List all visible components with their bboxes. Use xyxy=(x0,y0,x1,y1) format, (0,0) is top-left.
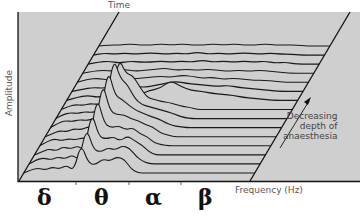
annotation-line-2: depth of xyxy=(283,121,337,131)
time-axis-label: Time xyxy=(108,0,130,10)
band-label-beta: β xyxy=(198,184,213,210)
band-label-theta: θ xyxy=(94,184,109,210)
band-label-delta: δ xyxy=(37,184,52,210)
spectral-array-figure xyxy=(0,0,360,216)
anaesthesia-annotation: Decreasing depth of anaesthesia xyxy=(283,111,337,141)
band-label-alpha: α xyxy=(145,184,162,210)
annotation-line-1: Decreasing xyxy=(283,111,337,121)
annotation-line-3: anaesthesia xyxy=(283,131,337,141)
frequency-axis-label: Frequency (Hz) xyxy=(235,185,303,195)
amplitude-axis-label: Amplitude xyxy=(4,70,14,116)
